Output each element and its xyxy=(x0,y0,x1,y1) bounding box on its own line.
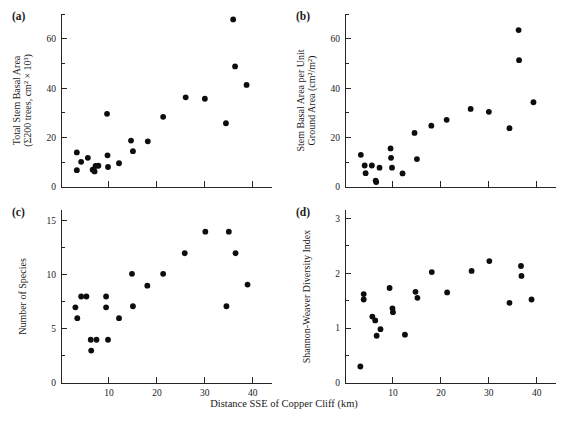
data-point xyxy=(116,160,122,166)
data-point xyxy=(130,148,136,154)
panel-letter: (a) xyxy=(12,10,26,23)
x-tick-label: 40 xyxy=(532,388,542,396)
data-point xyxy=(414,156,420,162)
chart-panel-b: (b)0204060Stem Basal Area per UnitGround… xyxy=(284,0,568,200)
axis-spines xyxy=(61,14,272,187)
data-point xyxy=(428,123,434,129)
data-point xyxy=(145,138,151,144)
data-point xyxy=(92,169,98,175)
data-point xyxy=(363,170,369,176)
data-point xyxy=(202,229,208,235)
data-point xyxy=(362,163,368,169)
data-point xyxy=(412,130,418,136)
data-point xyxy=(84,294,90,300)
y-axis-title: Shannon-Weaver Diversity Index xyxy=(301,230,312,364)
data-point xyxy=(402,332,408,338)
panel-letter: (c) xyxy=(12,206,25,219)
data-point xyxy=(486,109,492,115)
data-point xyxy=(78,294,84,300)
data-point-group xyxy=(357,258,534,369)
data-point xyxy=(226,229,232,235)
data-point xyxy=(358,152,364,158)
data-point-group xyxy=(72,229,250,354)
data-point xyxy=(415,295,421,301)
panel-letter: (d) xyxy=(296,206,310,219)
data-point xyxy=(183,94,189,100)
axis-spines xyxy=(61,210,272,383)
data-point xyxy=(507,300,513,306)
figure-x-axis-title: Distance SSE of Copper Cliff (km) xyxy=(0,398,568,409)
data-point xyxy=(74,315,80,321)
data-point xyxy=(223,120,229,126)
data-point xyxy=(103,304,109,310)
y-axis-title: Stem Basal Area per Unit xyxy=(295,49,306,151)
data-point xyxy=(387,285,393,291)
data-point xyxy=(245,282,251,288)
data-point xyxy=(469,268,475,274)
data-point xyxy=(357,364,363,370)
data-point xyxy=(429,269,435,275)
y-tick-label: 20 xyxy=(331,133,341,143)
data-point xyxy=(531,99,537,105)
data-point xyxy=(374,333,380,339)
data-point xyxy=(519,273,525,279)
y-tick-label: 60 xyxy=(331,34,341,44)
y-tick-label: 1 xyxy=(335,323,340,333)
x-tick-label: 10 xyxy=(388,388,398,396)
data-point xyxy=(105,164,111,170)
data-point xyxy=(378,326,384,332)
y-tick-label: 60 xyxy=(47,34,57,44)
data-point xyxy=(244,82,250,88)
data-point xyxy=(444,117,450,123)
y-tick-label: 3 xyxy=(335,214,340,224)
data-point xyxy=(377,165,383,171)
data-point xyxy=(388,146,394,152)
y-tick-label: 0 xyxy=(51,182,56,192)
data-point xyxy=(361,297,367,303)
data-point xyxy=(104,111,110,117)
data-point xyxy=(105,337,111,343)
data-point xyxy=(94,337,100,343)
y-tick-label: 2 xyxy=(335,269,340,279)
data-point xyxy=(373,179,379,185)
x-tick-label: 40 xyxy=(248,388,258,396)
data-point xyxy=(388,155,394,161)
y-tick-label: 5 xyxy=(51,324,56,334)
scatter-plot-c: (c)05101510203040Number of Species xyxy=(0,196,284,396)
y-tick-label: 0 xyxy=(335,378,340,388)
data-point xyxy=(88,348,94,354)
data-point-group xyxy=(358,27,536,185)
data-point xyxy=(116,315,122,321)
data-point xyxy=(232,63,238,69)
data-point xyxy=(369,163,375,169)
data-point xyxy=(128,138,134,144)
data-point xyxy=(486,258,492,264)
data-point xyxy=(507,125,513,131)
data-point xyxy=(74,150,80,156)
data-point xyxy=(72,304,78,310)
data-point xyxy=(88,337,94,343)
data-point xyxy=(96,163,102,169)
y-tick-label: 20 xyxy=(47,133,57,143)
data-point xyxy=(529,297,535,303)
data-point xyxy=(400,171,406,177)
data-point xyxy=(74,167,80,173)
panel-letter: (b) xyxy=(296,10,310,23)
y-axis-title: Total Stem Basal Area xyxy=(11,55,22,145)
data-point xyxy=(78,159,84,165)
x-tick-label: 10 xyxy=(104,388,114,396)
data-point xyxy=(516,57,522,63)
y-tick-label: 40 xyxy=(331,84,341,94)
data-point xyxy=(144,283,150,289)
data-point xyxy=(129,271,135,277)
data-point xyxy=(230,17,236,23)
data-point xyxy=(105,152,111,158)
figure-panel-grid: (a)0204060Total Stem Basal Area(Σ200 tre… xyxy=(0,0,568,423)
y-axis-title: (Σ200 trees, cm² × 10³) xyxy=(22,54,34,147)
data-point xyxy=(160,271,166,277)
data-point xyxy=(224,303,230,309)
y-axis-title: Number of Species xyxy=(17,258,28,335)
data-point xyxy=(130,303,136,309)
data-point xyxy=(233,250,239,256)
y-tick-label: 40 xyxy=(47,84,57,94)
